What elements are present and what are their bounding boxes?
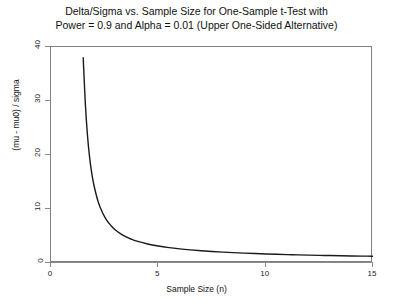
y-tick-label-30: 30 [0,94,42,103]
x-tick-label-10: 10 [250,269,280,278]
plot-area [50,46,372,262]
data-line-svg [51,47,373,263]
y-tick-label-0: 0 [0,256,42,265]
x-tick-label-5: 5 [142,269,172,278]
series-delta-sigma-line [83,58,373,256]
y-tick-label-20: 20 [0,148,42,157]
x-tick-label-15: 15 [357,269,387,278]
y-axis-title: (mu - mu0) / sigma [11,55,21,175]
chart-title-line-1: Delta/Sigma vs. Sample Size for One-Samp… [0,4,393,18]
chart-title: Delta/Sigma vs. Sample Size for One-Samp… [0,4,393,32]
y-tick-label-10: 10 [0,202,42,211]
chart-title-line-2: Power = 0.9 and Alpha = 0.01 (Upper One-… [0,18,393,32]
x-axis-title: Sample Size (n) [0,284,393,294]
x-tick-label-0: 0 [35,269,65,278]
chart-figure: Delta/Sigma vs. Sample Size for One-Samp… [0,0,393,304]
y-tick-label-40: 40 [0,40,42,49]
